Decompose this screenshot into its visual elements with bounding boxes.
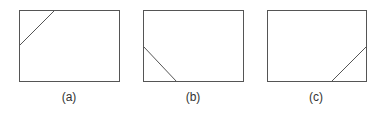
panel-rect-c: [268, 11, 367, 82]
corner-cut-line-b: [144, 47, 177, 82]
panel-rect-b: [144, 11, 244, 82]
panel-label-c: (c): [296, 90, 336, 104]
corner-cut-line-a: [20, 11, 55, 46]
panel-label-a: (a): [49, 90, 89, 104]
panel-rect-a: [20, 11, 120, 82]
corner-cut-line-c: [332, 47, 367, 82]
panel-label-b: (b): [173, 90, 213, 104]
